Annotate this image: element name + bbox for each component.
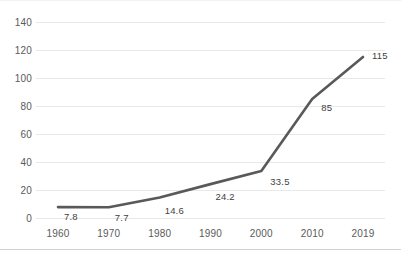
data-point-label: 24.2 (216, 191, 235, 202)
x-tick-label: 1980 (148, 228, 171, 239)
data-point-label: 115 (372, 50, 388, 61)
data-point-label: 7.8 (64, 211, 78, 222)
x-axis: 1960197019801990200020102019 (36, 228, 385, 246)
x-tick-label: 2019 (351, 228, 374, 239)
y-tick-label: 60 (2, 129, 32, 140)
data-point-label: 85 (321, 102, 332, 113)
line-chart: 020406080100120140 7.87.714.624.233.5851… (0, 0, 401, 259)
y-tick-label: 100 (2, 73, 32, 84)
x-tick-label: 1970 (97, 228, 120, 239)
data-point-label: 14.6 (165, 204, 184, 215)
x-tick-label: 2010 (301, 228, 324, 239)
chart-top-edge (0, 0, 401, 1)
x-tick-label: 1990 (199, 228, 222, 239)
y-tick-label: 40 (2, 157, 32, 168)
x-tick-label: 2000 (250, 228, 273, 239)
y-tick-label: 140 (2, 17, 32, 28)
y-tick-label: 0 (2, 213, 32, 224)
chart-bottom-border (0, 249, 401, 250)
y-axis: 020406080100120140 (0, 22, 32, 218)
gridline (36, 218, 385, 219)
data-point-label: 33.5 (270, 176, 289, 187)
y-tick-label: 80 (2, 101, 32, 112)
data-point-label: 7.7 (115, 212, 129, 223)
data-labels: 7.87.714.624.233.585115 (36, 22, 385, 218)
x-tick-label: 1960 (46, 228, 69, 239)
y-tick-label: 120 (2, 45, 32, 56)
y-tick-label: 20 (2, 185, 32, 196)
